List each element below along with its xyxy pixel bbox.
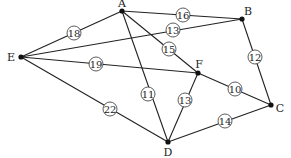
node-label: A [117,0,127,10]
edge-weight-label: 12 [249,52,262,63]
edge-weight-label: 22 [104,104,117,115]
edge-weight-label: 13 [167,25,180,36]
edge-F-D [168,73,198,142]
node-F [195,70,200,75]
edge-weight-label: 10 [229,84,242,95]
node-D [165,139,170,144]
edge-E-F [21,57,198,73]
edge-weight-label: 11 [142,89,155,100]
node-label: C [276,102,284,115]
node-label: D [164,146,173,158]
edge-weight-label: 13 [179,95,192,106]
edge-weight-label: 19 [90,59,103,70]
edge-weight-label: 16 [177,10,190,21]
node-label: B [244,5,252,18]
edge-A-D [122,11,168,142]
edge-weight-label: 14 [219,116,232,127]
node-C [268,102,273,107]
edge-weight-label: 15 [163,44,176,55]
node-label: F [195,58,203,71]
node-E [18,54,23,59]
graph-diagram: 1816131519121113102214ABEFCD [0,0,291,157]
node-label: E [7,51,15,64]
graph-canvas: 1816131519121113102214ABEFCD [0,0,291,157]
edge-weight-label: 18 [68,28,81,39]
